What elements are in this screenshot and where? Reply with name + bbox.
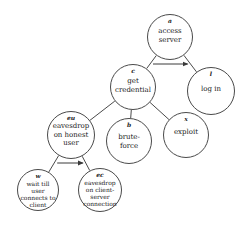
- node-label: eavesdrop on honest user: [53, 122, 90, 148]
- node-label: eavesdrop on client- server connection: [83, 179, 116, 207]
- edge-eu-ec: [82, 156, 90, 170]
- node-eu-eavesdrop-on-honest-user: eu eavesdrop on honest user: [47, 111, 95, 159]
- node-id: b: [127, 121, 131, 128]
- node-label: access server: [158, 27, 181, 44]
- edge-eu-w: [49, 156, 59, 172]
- edge-c-x: [150, 102, 169, 119]
- attack-tree-diagram: a access server c get credential l log i…: [0, 0, 241, 228]
- node-id: w: [35, 172, 40, 179]
- node-label: get credential: [115, 77, 151, 94]
- node-w-wait-till-user-connects: w wait till user connects to client: [17, 169, 59, 211]
- edge-c-b: [131, 110, 132, 118]
- node-a-access-server: a access server: [147, 14, 193, 60]
- node-b-brute-force: b brute- force: [106, 118, 152, 164]
- node-x-exploit: x exploit: [163, 112, 209, 158]
- node-id: ec: [96, 171, 103, 178]
- node-id: x: [184, 115, 188, 122]
- node-ec-eavesdrop-on-connection: ec eavesdrop on client- server connectio…: [78, 168, 122, 212]
- node-id: eu: [67, 114, 75, 121]
- node-label: log in: [201, 85, 221, 94]
- node-id: c: [131, 67, 135, 74]
- edge-a-c: [147, 55, 157, 68]
- node-c-get-credential: c get credential: [110, 64, 156, 110]
- node-label: exploit: [174, 128, 198, 137]
- node-id: a: [168, 17, 172, 24]
- node-id: l: [210, 70, 212, 77]
- node-label: wait till user connects to client: [20, 180, 55, 208]
- node-label: brute- force: [118, 133, 140, 150]
- node-l-log-in: l log in: [187, 67, 235, 115]
- edge-c-eu: [90, 101, 115, 120]
